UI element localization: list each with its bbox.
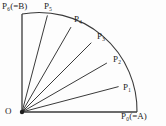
point-label-P3-text: P₃ <box>97 31 105 41</box>
point-label-P1-text: P₁ <box>123 82 131 92</box>
point-label-P1: P₁ <box>123 83 131 92</box>
radial-line-P4 <box>22 27 71 112</box>
radial-line-P5 <box>22 15 47 112</box>
point-label-P3: P₃ <box>97 32 105 41</box>
point-label-P6-text: P₆(=B) <box>2 1 27 11</box>
point-label-P5-text: P₅ <box>44 1 52 11</box>
origin-label-text: O <box>5 106 12 116</box>
origin-dot <box>20 110 24 114</box>
figure-container: P₆(=B) P₅ P₄ P₃ P₂ P₁ P₀(=A) O <box>0 0 166 126</box>
radial-line-P1 <box>22 87 119 112</box>
point-label-P0: P₀(=A) <box>121 112 147 121</box>
point-label-P2-text: P₂ <box>113 54 121 64</box>
point-label-P0-text: P₀(=A) <box>121 111 147 121</box>
point-label-P4-text: P₄ <box>74 14 82 24</box>
point-label-P5: P₅ <box>44 2 52 11</box>
point-label-P2: P₂ <box>113 55 121 64</box>
radial-line-P3 <box>22 43 91 112</box>
quarter-circle-diagram-svg <box>0 0 166 126</box>
point-label-P4: P₄ <box>74 15 82 24</box>
origin-label: O <box>5 107 12 116</box>
point-label-P6: P₆(=B) <box>2 2 27 11</box>
radial-line-P2 <box>22 63 107 112</box>
